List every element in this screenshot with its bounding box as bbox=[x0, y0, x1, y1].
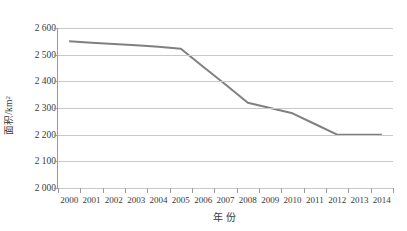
x-axis-tick bbox=[58, 188, 59, 193]
y-axis-tick-label: 2 100 bbox=[16, 156, 56, 166]
y-axis-tick-label: 2 600 bbox=[16, 23, 56, 33]
grid-line bbox=[58, 28, 393, 29]
grid-line bbox=[58, 81, 393, 82]
x-axis-tick bbox=[170, 188, 171, 193]
x-axis-tick bbox=[103, 188, 104, 193]
x-axis-tick bbox=[371, 188, 372, 193]
y-axis-tick bbox=[54, 108, 58, 109]
plot-area bbox=[58, 28, 393, 188]
x-axis-tick bbox=[326, 188, 327, 193]
grid-line bbox=[58, 108, 393, 109]
y-axis-title: 面积/km2 bbox=[0, 0, 16, 231]
x-axis-tick bbox=[147, 188, 148, 193]
x-axis-tick bbox=[348, 188, 349, 193]
grid-line bbox=[58, 161, 393, 162]
x-axis-tick bbox=[80, 188, 81, 193]
x-axis-tick bbox=[125, 188, 126, 193]
y-axis-tick-label: 2 000 bbox=[16, 183, 56, 193]
x-axis-tick bbox=[393, 188, 394, 193]
grid-line bbox=[58, 135, 393, 136]
y-axis-tick-label: 2 500 bbox=[16, 50, 56, 60]
y-axis-title-text: 面积/km bbox=[1, 99, 15, 135]
x-axis-tick bbox=[281, 188, 282, 193]
x-axis-tick bbox=[259, 188, 260, 193]
y-axis-tick bbox=[54, 161, 58, 162]
x-axis-tick bbox=[237, 188, 238, 193]
y-axis-tick-label: 2 400 bbox=[16, 76, 56, 86]
x-axis-tick bbox=[304, 188, 305, 193]
x-axis-title: 年份 bbox=[58, 209, 393, 224]
grid-line bbox=[58, 55, 393, 56]
y-axis-tick bbox=[54, 81, 58, 82]
y-axis-tick-labels: 2 6002 5002 4002 3002 2002 1002 000 bbox=[16, 0, 56, 231]
x-axis-tick-label: 2014 bbox=[365, 194, 399, 206]
x-axis-tick-labels: 2000200120022003200420052006200720082009… bbox=[58, 194, 393, 208]
y-axis-tick bbox=[54, 135, 58, 136]
y-axis-tick-label: 2 300 bbox=[16, 103, 56, 113]
x-axis-tick bbox=[192, 188, 193, 193]
x-axis-ticks bbox=[58, 188, 393, 193]
y-axis-tick bbox=[54, 55, 58, 56]
y-axis-tick-label: 2 200 bbox=[16, 130, 56, 140]
y-axis-tick bbox=[54, 28, 58, 29]
line-chart: 面积/km2 2 6002 5002 4002 3002 2002 1002 0… bbox=[0, 0, 407, 231]
x-axis-tick bbox=[214, 188, 215, 193]
